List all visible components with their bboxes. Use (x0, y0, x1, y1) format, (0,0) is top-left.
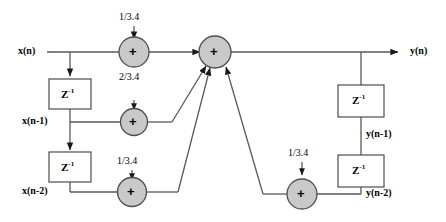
label-coefficient-lower-right: 1/3.4 (288, 148, 308, 158)
wire-mid-adder-to-main (172, 66, 206, 122)
delay-block-y2-label: Z-1 (352, 164, 365, 176)
delay-exponent-text: -1 (359, 163, 365, 171)
adder-main-symbol: + (210, 45, 218, 58)
adder-input-top-symbol: + (129, 45, 137, 58)
delay-block-x2-label: Z-1 (61, 161, 74, 173)
label-output-yn1: y(n-1) (366, 129, 392, 139)
adder-feedback-symbol: + (297, 187, 305, 200)
label-coefficient-lower-left: 1/3.4 (117, 156, 137, 166)
signal-flow-diagram: + + + + + x(n) x(n-1) x(n-2) y(n) y(n-1)… (0, 0, 446, 222)
adder-input-mid-symbol: + (129, 115, 137, 128)
label-input-xn2: x(n-2) (22, 186, 48, 196)
delay-exponent-text: -1 (359, 93, 365, 101)
adder-input-bottom-symbol: + (127, 185, 135, 198)
label-coefficient-mid: 2/3.4 (119, 72, 139, 82)
delay-block-y1-label: Z-1 (352, 94, 365, 106)
label-input-xn1: x(n-1) (22, 116, 48, 126)
delay-block-x1-label: Z-1 (61, 88, 74, 100)
label-output-yn2: y(n-2) (366, 188, 392, 198)
label-output-yn: y(n) (410, 46, 427, 56)
wire-feedback-to-main (226, 67, 263, 194)
delay-exponent-text: -1 (68, 87, 74, 95)
delay-exponent-text: -1 (68, 160, 74, 168)
label-input-xn: x(n) (18, 46, 35, 56)
label-coefficient-top: 1/3.4 (119, 12, 139, 22)
